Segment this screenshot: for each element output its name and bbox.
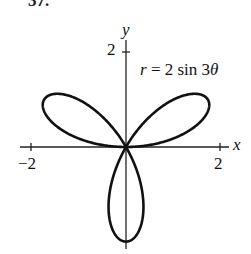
y-tick-label-2: 2 bbox=[107, 40, 116, 60]
x-tick-label-neg2: −2 bbox=[18, 154, 36, 174]
equation-r: r bbox=[140, 60, 147, 79]
equation-label: r = 2 sin 3θ bbox=[140, 60, 218, 80]
equation-body: = 2 sin 3 bbox=[151, 60, 210, 79]
x-axis-label: x bbox=[233, 135, 241, 155]
y-axis-label: y bbox=[122, 20, 130, 40]
equation-theta: θ bbox=[210, 60, 218, 79]
x-tick-label-2: 2 bbox=[214, 154, 223, 174]
